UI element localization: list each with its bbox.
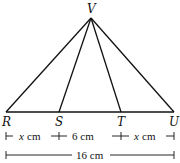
triangle-lines <box>6 18 174 112</box>
dim-rs-unit: cm <box>27 130 41 142</box>
dim-tu-unit: cm <box>142 130 156 142</box>
dim-tu-var: x <box>133 130 139 142</box>
label-v: V <box>87 2 97 16</box>
label-s: S <box>55 115 63 129</box>
triangle-diagram: V R S T U x cm 6 cm x cm 16 cm <box>0 0 180 163</box>
dim-rs-var: x <box>18 130 24 142</box>
segment-vt <box>91 18 121 112</box>
label-r: R <box>1 115 11 129</box>
segment-vr <box>6 18 91 112</box>
label-u: U <box>169 115 180 129</box>
dim-ru: 16 cm <box>76 149 104 161</box>
label-t: T <box>117 115 126 129</box>
segment-vu <box>91 18 174 112</box>
dim-st: 6 cm <box>72 130 94 142</box>
segment-vs <box>59 18 91 112</box>
